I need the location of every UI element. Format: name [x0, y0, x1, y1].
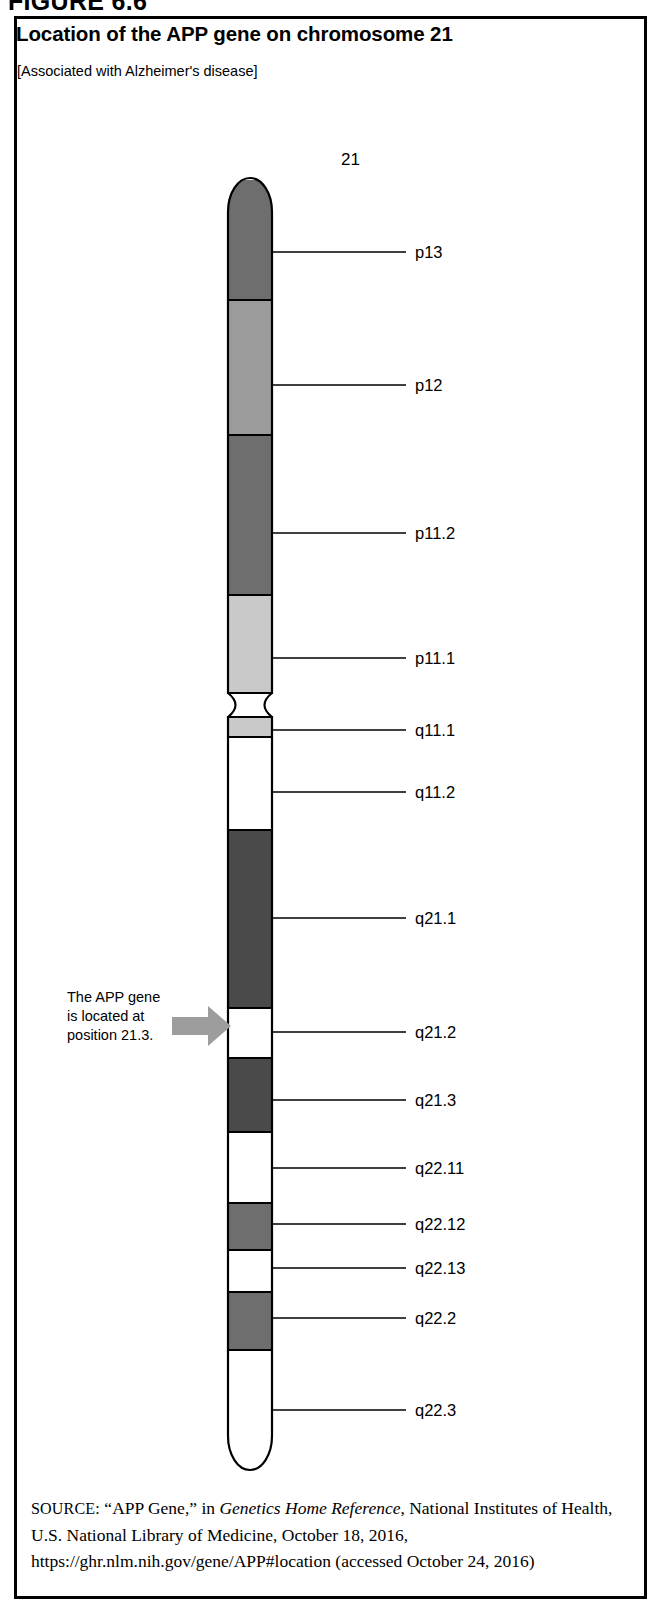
band-label-p13: p13 — [415, 243, 443, 262]
gene-annotation-line-1: The APP gene — [67, 988, 177, 1007]
band-label-q22.3: q22.3 — [415, 1401, 456, 1420]
source-text-part1: “APP Gene,” in — [104, 1498, 219, 1518]
source-note: SOURCE: “APP Gene,” in Genetics Home Ref… — [31, 1495, 621, 1574]
gene-annotation: The APP gene is located at position 21.3… — [67, 988, 177, 1045]
band-label-p11.2: p11.2 — [415, 524, 455, 543]
band-label-q11.1: q11.1 — [415, 721, 455, 740]
band-label-q22.13: q22.13 — [415, 1259, 465, 1278]
band-label-q11.2: q11.2 — [415, 783, 455, 802]
band-label-q21.1: q21.1 — [415, 909, 456, 928]
band-label-q21.2: q21.2 — [415, 1023, 456, 1042]
chromosome-number-label: 21 — [0, 150, 663, 170]
figure-box — [14, 16, 647, 1599]
chromosome-number-text: 21 — [341, 150, 360, 169]
gene-annotation-line-2: is located at — [67, 1007, 177, 1026]
source-prefix: SOURCE: — [31, 1500, 100, 1517]
band-label-q22.11: q22.11 — [415, 1159, 464, 1178]
gene-annotation-line-3: position 21.3. — [67, 1026, 177, 1045]
band-label-q21.3: q21.3 — [415, 1091, 456, 1110]
figure-subtitle: [Associated with Alzheimer's disease] — [17, 63, 258, 79]
source-italic-title: Genetics Home Reference — [219, 1498, 400, 1518]
figure-title: Location of the APP gene on chromosome 2… — [16, 22, 453, 46]
band-label-q22.2: q22.2 — [415, 1309, 456, 1328]
band-label-p11.1: p11.1 — [415, 649, 455, 668]
band-label-p12: p12 — [415, 376, 443, 395]
band-label-q22.12: q22.12 — [415, 1215, 465, 1234]
figure-number: FIGURE 6.6 — [8, 0, 147, 16]
